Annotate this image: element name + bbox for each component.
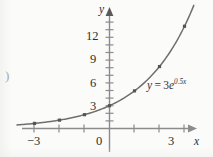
x-tick-label-0: 0 [96, 135, 102, 148]
data-point-marker [183, 25, 186, 28]
y-axis [106, 7, 114, 152]
y-axis-label: y [99, 4, 104, 16]
page-edge-artifact: ) [5, 68, 9, 84]
equation-exponent: 0.5x [174, 78, 186, 86]
data-point-marker [108, 104, 111, 107]
data-point-marker [58, 119, 61, 122]
data-point-marker [133, 89, 136, 92]
y-tick-label-12: 12 [86, 30, 99, 43]
y-tick-label-3: 3 [90, 100, 96, 113]
equation-lhs: y [147, 79, 152, 91]
x-tick-label-negative-3: −3 [27, 135, 40, 148]
x-axis-label: x [194, 136, 199, 148]
y-tick-label-6: 6 [90, 77, 96, 90]
equation-equals: = [154, 79, 161, 91]
x-axis-arrowhead [188, 125, 197, 133]
data-point-marker [158, 65, 161, 68]
data-point-marker [83, 113, 86, 116]
y-tick-label-9: 9 [90, 53, 96, 66]
data-point-marker [33, 122, 36, 125]
exponential-curve [17, 5, 194, 125]
x-tick-label-3: 3 [168, 135, 174, 148]
y-axis-arrowhead [106, 7, 114, 16]
function-equation-label: y = 3e0.5x [147, 80, 186, 92]
exponential-function-figure: 12 9 6 3 −3 0 3 x y y = 3e0.5x ) [0, 0, 213, 157]
